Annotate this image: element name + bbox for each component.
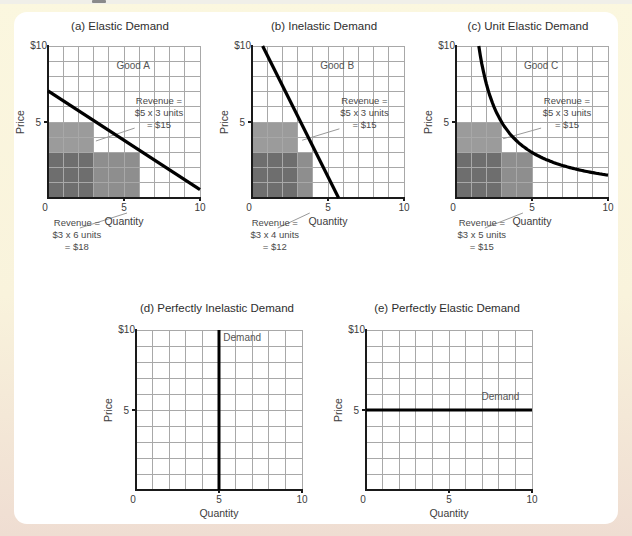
chart-canvas-unit-elastic-demand: $1050510PriceQuantityGood CRevenue =$5 x… <box>422 40 618 258</box>
chart-title-d: (d) Perfectly Inelastic Demand <box>98 302 328 318</box>
revenue-low-annotation-line: = $18 <box>65 241 89 252</box>
y-axis-label: Price <box>218 110 230 134</box>
chart-canvas-inelastic-demand: $1050510PriceQuantityGood BRevenue =$5 x… <box>218 40 414 258</box>
x-axis-tick-label-5: 5 <box>121 202 127 213</box>
x-axis-label: Quantity <box>199 507 239 519</box>
x-axis-label: Quantity <box>429 507 469 519</box>
x-axis-tick-label-10: 10 <box>194 202 206 213</box>
revenue-rect-low-price <box>94 152 140 198</box>
revenue-low-annotation-line: = $15 <box>470 241 494 252</box>
chart-panel-elastic-demand: (a) Elastic Demand $1050510PriceQuantity… <box>14 20 210 258</box>
revenue-low-annotation-line: $3 x 5 units <box>458 229 507 240</box>
y-axis-top-tick-label: $10 <box>438 40 455 51</box>
top-edge-artifact <box>92 0 106 3</box>
chart-canvas-perfectly-inelastic-demand: $1050510PriceQuantityDemand <box>98 322 328 522</box>
revenue-high-annotation-line: = $15 <box>147 119 171 130</box>
revenue-high-annotation-line: = $15 <box>555 119 579 130</box>
x-axis-tick-label-10: 10 <box>398 202 410 213</box>
x-axis-tick-label-10: 10 <box>602 202 614 213</box>
y-axis-top-tick-label: $10 <box>234 40 251 51</box>
revenue-high-annotation-line: = $15 <box>352 119 376 130</box>
y-axis-top-tick-label: $10 <box>348 324 365 335</box>
revenue-high-annotation-line: Revenue = <box>341 95 388 106</box>
y-axis-label: Price <box>332 398 344 422</box>
y-axis-label: Price <box>14 110 26 134</box>
x-axis-tick-label-10: 10 <box>526 494 538 505</box>
y-axis-mid-tick-label: 5 <box>353 405 359 416</box>
revenue-high-annotation-line: $5 x 3 units <box>135 107 184 118</box>
y-axis-top-tick-label: $10 <box>30 40 47 51</box>
good-label: Good A <box>116 60 150 71</box>
x-axis-label: Quantity <box>308 215 348 227</box>
figure-panel: (a) Elastic Demand $1050510PriceQuantity… <box>14 12 618 524</box>
revenue-low-annotation-line: = $12 <box>263 241 287 252</box>
chart-canvas-elastic-demand: $1050510PriceQuantityGood ARevenue =$5 x… <box>14 40 210 258</box>
good-label: Good C <box>524 60 558 71</box>
chart-panel-perfectly-elastic-demand: (e) Perfectly Elastic Demand $1050510Pri… <box>328 302 558 522</box>
y-axis-mid-tick-label: 5 <box>123 405 129 416</box>
x-axis-tick-label-0: 0 <box>360 494 366 505</box>
chart-panel-inelastic-demand: (b) Inelastic Demand $1050510PriceQuanti… <box>218 20 414 258</box>
chart-title-c: (c) Unit Elastic Demand <box>422 20 618 36</box>
x-axis-label: Quantity <box>512 215 552 227</box>
chart-panel-perfectly-inelastic-demand: (d) Perfectly Inelastic Demand $1050510P… <box>98 302 328 522</box>
x-axis-tick-label-10: 10 <box>296 494 308 505</box>
revenue-rect-overlap <box>48 152 94 198</box>
x-axis-tick-label-0: 0 <box>450 202 456 213</box>
good-label: Good B <box>320 60 354 71</box>
revenue-rect-low-price <box>298 152 313 198</box>
revenue-low-annotation-line: Revenue = <box>252 217 299 228</box>
x-axis-tick-label-5: 5 <box>325 202 331 213</box>
revenue-rect-overlap <box>456 152 502 198</box>
revenue-low-annotation-line: $3 x 4 units <box>251 229 300 240</box>
y-axis-top-tick-label: $10 <box>118 324 135 335</box>
screenshot-root: (a) Elastic Demand $1050510PriceQuantity… <box>0 0 632 536</box>
x-axis-label: Quantity <box>104 215 144 227</box>
revenue-high-annotation-line: $5 x 3 units <box>543 107 592 118</box>
x-axis-tick-label-5: 5 <box>529 202 535 213</box>
x-axis-tick-label-5: 5 <box>216 494 222 505</box>
revenue-high-annotation-line: Revenue = <box>136 95 183 106</box>
y-axis-mid-tick-label: 5 <box>443 117 449 128</box>
chart-title-e: (e) Perfectly Elastic Demand <box>328 302 558 318</box>
revenue-low-annotation-line: Revenue = <box>459 217 506 228</box>
y-axis-mid-tick-label: 5 <box>35 117 41 128</box>
revenue-high-annotation-line: Revenue = <box>544 95 591 106</box>
revenue-high-annotation-line: $5 x 3 units <box>340 107 389 118</box>
revenue-low-annotation-line: $3 x 6 units <box>53 229 102 240</box>
revenue-low-annotation-line: Revenue = <box>54 217 101 228</box>
x-axis-tick-label-5: 5 <box>446 494 452 505</box>
chart-title-a: (a) Elastic Demand <box>14 20 210 36</box>
demand-curve-label: Demand <box>223 332 261 343</box>
y-axis-label: Price <box>102 398 114 422</box>
chart-canvas-perfectly-elastic-demand: $1050510PriceQuantityDemand <box>328 322 558 522</box>
demand-curve-label: Demand <box>482 391 520 402</box>
y-axis-mid-tick-label: 5 <box>239 117 245 128</box>
revenue-rect-overlap <box>252 152 298 198</box>
y-axis-label: Price <box>422 110 434 134</box>
x-axis-tick-label-0: 0 <box>130 494 136 505</box>
x-axis-tick-label-0: 0 <box>246 202 252 213</box>
chart-title-b: (b) Inelastic Demand <box>218 20 414 36</box>
x-axis-tick-label-0: 0 <box>42 202 48 213</box>
chart-panel-unit-elastic-demand: (c) Unit Elastic Demand $1050510PriceQua… <box>422 20 618 258</box>
